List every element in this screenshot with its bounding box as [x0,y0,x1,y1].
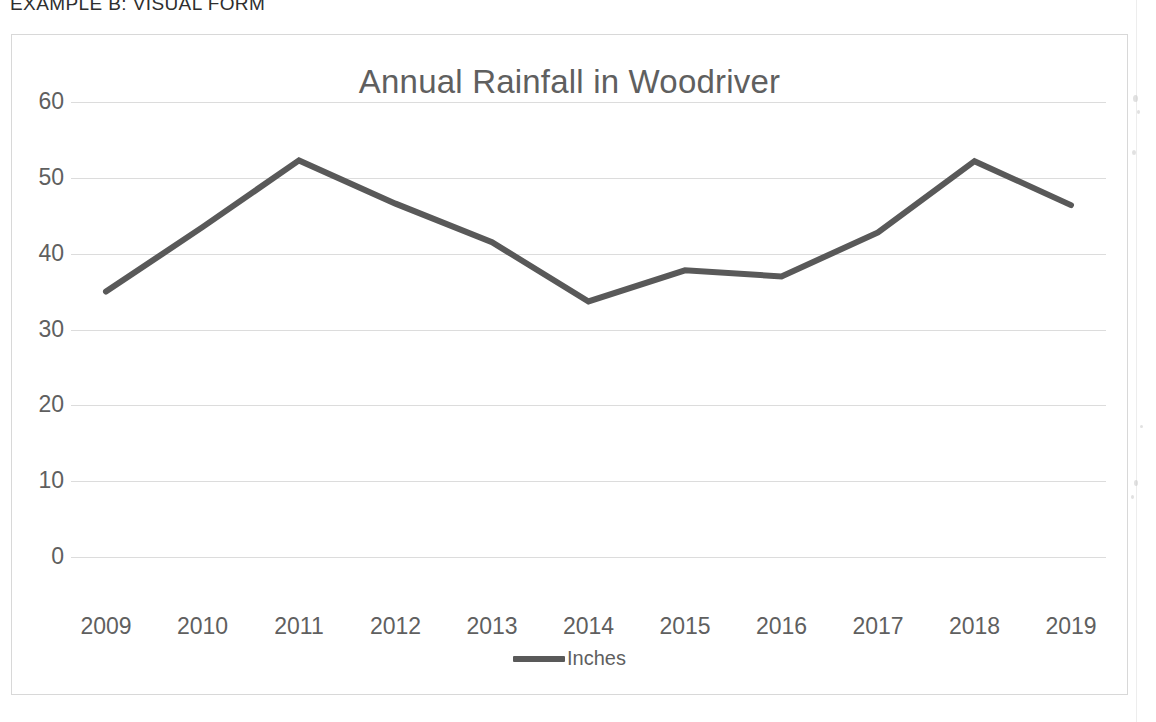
x-tick-label: 2014 [563,613,614,640]
x-tick-label: 2010 [177,613,228,640]
plot-area [71,102,1106,557]
scan-artifact [1133,95,1138,102]
gridline [71,557,1106,558]
y-axis: 0102030405060 [12,102,64,557]
y-tick-label: 0 [20,545,64,568]
x-tick-label: 2016 [756,613,807,640]
x-tick-label: 2018 [949,613,1000,640]
x-tick-label: 2015 [659,613,710,640]
y-tick-label: 50 [20,166,64,189]
y-tick-label: 40 [20,242,64,265]
line-series [71,102,1106,557]
scan-artifact [1131,495,1134,499]
scan-artifact [1137,110,1140,114]
y-tick-label: 10 [20,469,64,492]
chart-container: Annual Rainfall in Woodriver 01020304050… [11,34,1128,695]
y-tick-label: 30 [20,318,64,341]
x-tick-label: 2019 [1045,613,1096,640]
scan-artifact [1140,425,1143,428]
x-tick-label: 2011 [274,613,323,640]
x-tick-label: 2012 [370,613,421,640]
y-tick-label: 20 [20,393,64,416]
y-tick-label: 60 [20,90,64,113]
document-header: EXAMPLE B: VISUAL FORM [10,0,265,15]
x-axis: 2009201020112012201320142015201620172018… [71,613,1106,647]
x-tick-label: 2009 [80,613,131,640]
scan-edge-line [1136,0,1137,722]
chart-title: Annual Rainfall in Woodriver [12,63,1127,101]
x-tick-label: 2013 [466,613,517,640]
legend-label: Inches [567,647,626,670]
legend-line-swatch [513,656,565,662]
x-tick-label: 2017 [852,613,903,640]
series-inches-line [106,160,1071,301]
chart-legend: Inches [12,647,1127,670]
scan-artifact [1132,150,1136,155]
scan-artifact [1134,480,1138,486]
